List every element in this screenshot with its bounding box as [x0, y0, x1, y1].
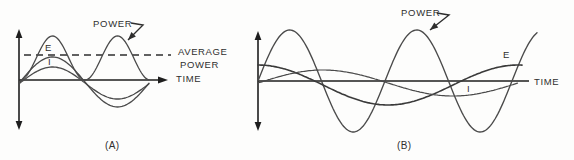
panel-b-i-label: I: [467, 83, 470, 94]
panel-b-voltage-e-curve: [258, 65, 522, 105]
panel-b-axis-down-arrow-icon: [255, 122, 262, 131]
panel-b-e-label: E: [503, 49, 509, 60]
panel-a-caption-label: (A): [105, 140, 120, 151]
panel-a-e-label: E: [45, 42, 51, 53]
panel-a-current-i-curve: [20, 67, 149, 99]
panel-a-i-label: I: [48, 56, 51, 67]
panel-b-power-label: POWER: [401, 7, 440, 18]
panel-a-time-axis-arrow-icon: [158, 76, 168, 83]
panel-a-time-label: TIME: [176, 73, 201, 84]
waveform-figure: POWEREIAVERAGEPOWERTIME(A)POWEREITIME(B): [0, 0, 574, 160]
panel-a-power-label: POWER: [93, 18, 132, 29]
panel-a-axis-up-arrow-icon: [16, 29, 23, 38]
figure-canvas: POWEREIAVERAGEPOWERTIME(A)POWEREITIME(B): [0, 0, 574, 160]
panel-b-caption-label: (B): [397, 140, 412, 151]
panel-b-axis-up-arrow-icon: [255, 31, 262, 40]
panel-a-power-curve: [20, 36, 149, 80]
panel-a-average-power-label-line2: POWER: [180, 59, 219, 70]
panel-a-average-power-label-line1: AVERAGE: [178, 46, 227, 57]
panel-a-axis-down-arrow-icon: [16, 121, 23, 130]
panel-b-time-label: TIME: [534, 76, 559, 87]
